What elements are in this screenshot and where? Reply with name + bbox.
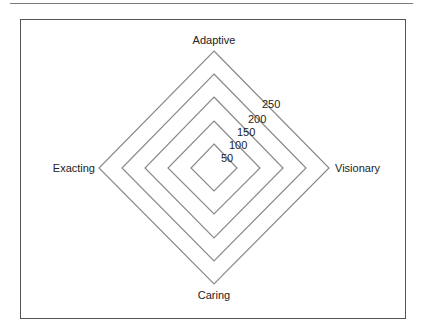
tick-label-100: 100 xyxy=(229,139,247,151)
tick-label-250: 250 xyxy=(262,98,280,110)
axis-label-caring: Caring xyxy=(198,289,230,301)
radial-tick-labels: 50 100 150 200 250 xyxy=(221,98,280,164)
grid-ring-250 xyxy=(99,51,329,284)
axis-label-exacting: Exacting xyxy=(53,162,95,174)
tick-label-50: 50 xyxy=(221,152,233,164)
axis-label-adaptive: Adaptive xyxy=(193,34,236,46)
axis-label-visionary: Visionary xyxy=(335,162,381,174)
axis-labels: Adaptive Visionary Caring Exacting xyxy=(53,34,381,301)
radar-grid xyxy=(99,51,329,284)
radar-chart: Adaptive Visionary Caring Exacting 50 10… xyxy=(0,0,423,331)
tick-label-150: 150 xyxy=(237,126,255,138)
tick-label-200: 200 xyxy=(248,113,266,125)
